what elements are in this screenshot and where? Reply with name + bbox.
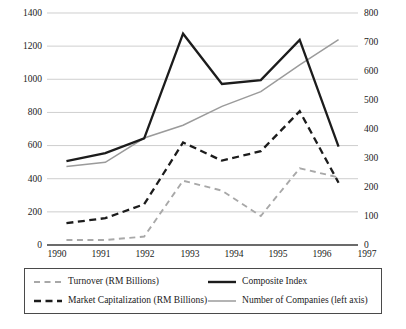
y-axis-right-tick-200: 200 <box>364 183 404 193</box>
y-axis-left-tick-1200: 1200 <box>2 42 42 52</box>
solid-gray-thin-line-icon <box>207 296 237 306</box>
x-axis-tick-1997: 1997 <box>346 250 388 260</box>
x-axis-tick-1995: 1995 <box>257 250 299 260</box>
y-axis-left-tick-400: 400 <box>2 175 42 185</box>
legend-item-market-capitalization: Market Capitalization (RM Billions) <box>33 296 207 306</box>
gridlines <box>47 13 358 212</box>
legend-label-composite-index: Composite Index <box>242 277 307 287</box>
legend-item-number-of-companies: Number of Companies (left axis) <box>207 296 375 306</box>
x-axis-tick-1991: 1991 <box>80 250 122 260</box>
x-axis-tick-1994: 1994 <box>213 250 255 260</box>
y-axis-right-tick-500: 500 <box>364 96 404 106</box>
y-axis-right-tick-100: 100 <box>364 212 404 222</box>
plot-area <box>47 13 358 245</box>
legend-item-turnover: Turnover (RM Billions) <box>33 277 207 287</box>
legend-label-turnover: Turnover (RM Billions) <box>68 277 159 287</box>
series-composite-index <box>66 34 338 161</box>
x-axis-tick-1993: 1993 <box>169 250 211 260</box>
y-axis-right-tick-400: 400 <box>364 125 404 135</box>
legend-label-number-of-companies: Number of Companies (left axis) <box>242 296 368 306</box>
y-axis-right-tick-600: 600 <box>364 67 404 77</box>
legend-item-composite-index: Composite Index <box>207 277 375 287</box>
y-axis-left-tick-600: 600 <box>2 141 42 151</box>
y-axis-left-tick-1400: 1400 <box>2 9 42 19</box>
dashed-black-thick-line-icon <box>33 296 63 306</box>
chart-legend: Turnover (RM Billions) Composite Index M… <box>24 268 382 314</box>
series-market-capitalization <box>66 111 338 223</box>
y-axis-right-tick-300: 300 <box>364 154 404 164</box>
y-axis-left-tick-200: 200 <box>2 208 42 218</box>
line-chart: 1400 1200 1000 800 600 400 200 0 800 700… <box>0 0 406 329</box>
y-axis-left-tick-800: 800 <box>2 108 42 118</box>
x-axis-tick-1992: 1992 <box>124 250 166 260</box>
x-axis-tick-1996: 1996 <box>301 250 343 260</box>
solid-black-thick-line-icon <box>207 277 237 287</box>
dashed-gray-line-icon <box>33 277 63 287</box>
legend-label-market-capitalization: Market Capitalization (RM Billions) <box>68 296 207 306</box>
y-axis-right-tick-700: 700 <box>364 38 404 48</box>
x-axis-tick-1990: 1990 <box>36 250 78 260</box>
y-axis-left-tick-1000: 1000 <box>2 75 42 85</box>
y-axis-right-tick-800: 800 <box>364 9 404 19</box>
